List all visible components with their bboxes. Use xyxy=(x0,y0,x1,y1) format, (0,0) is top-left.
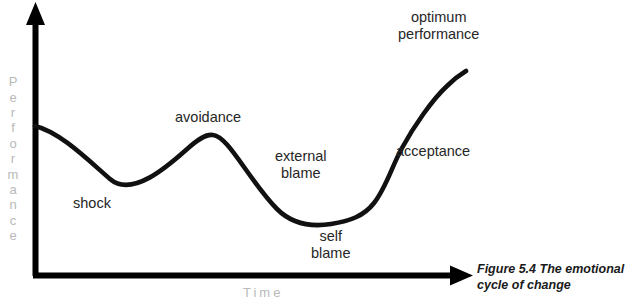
y-axis-title-letters: Performance xyxy=(4,75,22,90)
y-axis-arrowhead xyxy=(26,2,45,25)
label-external-blame: external blame xyxy=(275,148,327,182)
y-axis-title-letter: r xyxy=(4,106,22,121)
x-axis-title: Time xyxy=(243,286,283,300)
y-axis-title-letter: m xyxy=(4,168,22,183)
label-shock: shock xyxy=(73,195,111,212)
label-self-blame: self blame xyxy=(311,228,351,262)
y-axis-title-letter: c xyxy=(4,214,22,229)
y-axis-title-letter: e xyxy=(4,91,22,106)
y-axis-title-letter: r xyxy=(4,152,22,167)
label-acceptance: acceptance xyxy=(396,143,470,160)
emotional-cycle-figure: Performance Time shock avoidance externa… xyxy=(0,0,626,300)
y-axis-title-letter: P xyxy=(4,75,22,90)
y-axis-title-letter: e xyxy=(4,229,22,244)
x-axis-arrowhead xyxy=(450,266,473,286)
y-axis-title: Performance xyxy=(4,48,22,118)
y-axis-title-letter: a xyxy=(4,183,22,198)
label-avoidance: avoidance xyxy=(175,109,241,126)
figure-caption: Figure 5.4 The emotional cycle of change xyxy=(477,262,625,293)
y-axis-title-letter: n xyxy=(4,198,22,213)
y-axis-title-letter: o xyxy=(4,137,22,152)
y-axis-title-letter: f xyxy=(4,121,22,136)
label-optimum-performance: optimum performance xyxy=(398,9,479,43)
